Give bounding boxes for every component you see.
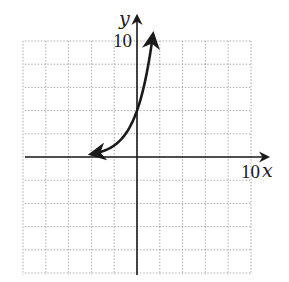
exponential-curve (91, 35, 153, 155)
y-tick-label: 10 (113, 30, 132, 51)
x-tick-label: 10 (241, 161, 260, 182)
y-axis-label: y (118, 7, 130, 29)
exponential-graph: y 10 10 x (0, 0, 289, 282)
x-axis-label: x (262, 159, 273, 181)
